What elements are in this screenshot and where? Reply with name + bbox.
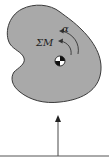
rigid-body — [7, 5, 101, 102]
force-arrowhead-icon — [55, 115, 61, 122]
sum-moments-label: ΣM — [36, 38, 53, 48]
alpha-label: α — [62, 24, 69, 34]
diagram-canvas — [0, 0, 109, 159]
center-of-mass-icon — [55, 56, 65, 66]
